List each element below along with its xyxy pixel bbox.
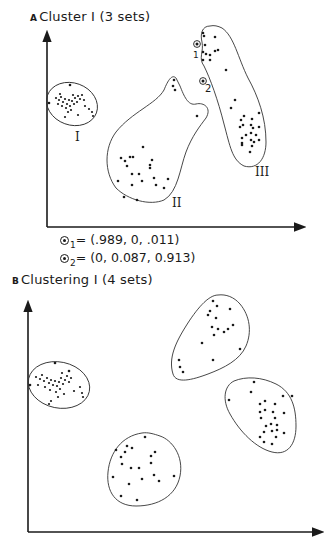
panel-b-title-text: Clustering I (4 sets)	[21, 272, 153, 287]
legend-point-2-text: = (0, 0.087, 0.913)	[76, 250, 196, 265]
panel-b-cluster-1-boundary	[24, 356, 94, 414]
special-point-marker-icon	[60, 236, 69, 245]
panel-b-cluster-2-points	[112, 436, 176, 502]
special-point-1-icon	[194, 41, 201, 48]
panel-b-cluster-3-boundary	[171, 295, 249, 380]
panel-b-title: BClustering I (4 sets)	[12, 272, 153, 287]
special-point-1-label: 1	[193, 50, 199, 60]
panel-b-letter: B	[12, 276, 19, 286]
special-point-marker-icon	[60, 254, 69, 263]
legend-point-1-text: = (.989, 0, .011)	[76, 232, 180, 247]
cluster-iii-label: III	[255, 165, 269, 179]
legend-point-1: 1= (.989, 0, .011)	[60, 232, 179, 250]
cluster-ii-label: II	[172, 196, 182, 210]
special-point-2-label: 2	[205, 83, 211, 94]
legend-point-2: 2= (0, 0.087, 0.913)	[60, 250, 195, 268]
cluster-iii-boundary	[201, 26, 266, 167]
cluster-i-label: I	[75, 130, 80, 144]
cluster-i-boundary	[40, 75, 103, 132]
panel-b-cluster-4-points	[228, 381, 294, 446]
panel-b-cluster-4-boundary	[225, 378, 296, 453]
panel-b-cluster-2-boundary	[108, 433, 181, 506]
cluster-ii-boundary	[107, 77, 208, 203]
